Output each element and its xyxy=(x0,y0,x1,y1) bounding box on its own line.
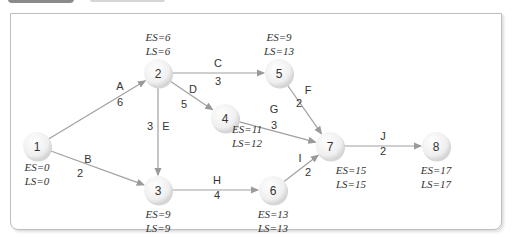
activity-label: H xyxy=(213,174,221,186)
duration-label: 2 xyxy=(296,97,302,109)
edge-H: H4 xyxy=(172,174,258,201)
duration-label: 6 xyxy=(117,96,123,108)
earliest-start: ES=0 xyxy=(23,161,50,173)
activity-label: B xyxy=(84,153,91,165)
duration-label: 3 xyxy=(215,75,221,87)
edge-I: I2 xyxy=(284,152,318,181)
node-number: 6 xyxy=(270,184,277,198)
earliest-start: ES=9 xyxy=(265,31,292,43)
arrow-line xyxy=(50,151,144,185)
node-number: 1 xyxy=(34,140,41,154)
node-8: 8ES=17LS=17 xyxy=(420,132,452,190)
duration-label: 2 xyxy=(305,166,311,178)
node-number: 2 xyxy=(155,67,162,81)
edge-F: F2 xyxy=(287,84,321,134)
duration-label: 3 xyxy=(271,119,277,131)
earliest-start: ES=15 xyxy=(335,164,367,176)
node-3: 3ES=9LS=9 xyxy=(144,176,173,234)
latest-start: LS=13 xyxy=(257,222,289,234)
edge-J: J2 xyxy=(344,130,421,157)
earliest-start: ES=17 xyxy=(420,164,452,176)
earliest-start: ES=13 xyxy=(257,208,289,220)
activity-label: C xyxy=(214,57,222,69)
earliest-start: ES=11 xyxy=(231,123,262,135)
latest-start: LS=0 xyxy=(24,175,50,187)
latest-start: LS=13 xyxy=(263,45,295,57)
arrow-line xyxy=(49,81,145,139)
node-6: 6ES=13LS=13 xyxy=(257,176,289,234)
node-number: 3 xyxy=(155,184,162,198)
network-diagram: A6B2C3D5E3F2G3H4I2J2 1ES=0LS=02ES=6LS=63… xyxy=(0,0,512,237)
node-5: 5ES=9LS=13 xyxy=(263,31,295,89)
node-number: 5 xyxy=(276,67,283,81)
latest-start: LS=9 xyxy=(145,222,171,234)
activity-label: J xyxy=(380,130,386,142)
earliest-start: ES=6 xyxy=(144,31,171,43)
node-number: 4 xyxy=(222,112,229,126)
node-number: 8 xyxy=(433,140,440,154)
node-1: 1ES=0LS=0 xyxy=(23,132,52,187)
duration-label: 4 xyxy=(214,189,220,201)
activity-label: A xyxy=(116,80,124,92)
activity-label: G xyxy=(270,103,279,115)
latest-start: LS=6 xyxy=(145,45,171,57)
activity-label: E xyxy=(162,120,169,132)
activity-label: I xyxy=(298,152,301,164)
latest-start: LS=15 xyxy=(335,178,367,190)
edge-B: B2 xyxy=(50,151,144,185)
latest-start: LS=12 xyxy=(231,137,263,149)
earliest-start: ES=9 xyxy=(144,208,171,220)
duration-label: 5 xyxy=(181,98,187,110)
node-2: 2ES=6LS=6 xyxy=(144,31,173,89)
duration-label: 3 xyxy=(147,120,153,132)
edge-E: E3 xyxy=(147,87,170,175)
node-4: 4ES=11LS=12 xyxy=(211,104,263,149)
node-number: 7 xyxy=(327,140,334,154)
edge-A: A6 xyxy=(49,80,145,139)
activity-label: D xyxy=(189,83,197,95)
node-7: 7ES=15LS=15 xyxy=(316,132,367,190)
duration-label: 2 xyxy=(77,167,83,179)
edge-C: C3 xyxy=(172,57,264,87)
activity-label: F xyxy=(305,84,312,96)
edge-D: D5 xyxy=(170,81,213,110)
duration-label: 2 xyxy=(380,145,386,157)
latest-start: LS=17 xyxy=(420,178,452,190)
